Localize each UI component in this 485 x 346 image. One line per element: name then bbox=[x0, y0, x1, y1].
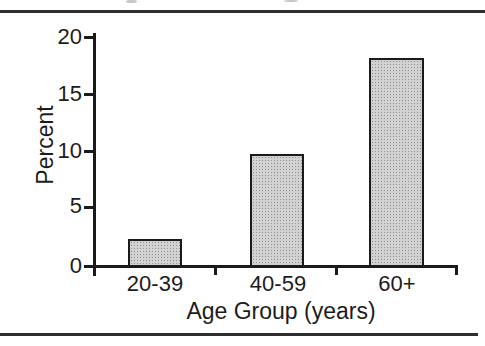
y-tick-label-15: 15 bbox=[32, 83, 82, 105]
scan-artifact-mark bbox=[126, 0, 137, 3]
bottom-horizontal-rule bbox=[0, 333, 478, 336]
y-axis-line bbox=[93, 33, 96, 276]
bar-60-plus bbox=[369, 58, 424, 267]
y-tick-mark-10 bbox=[84, 150, 93, 153]
bar-20-39 bbox=[128, 239, 182, 267]
x-axis-title: Age Group (years) bbox=[131, 299, 431, 323]
category-label-60-plus: 60+ bbox=[337, 273, 457, 295]
category-label-40-59: 40-59 bbox=[218, 273, 338, 295]
top-horizontal-rule bbox=[0, 10, 485, 13]
y-tick-label-0: 0 bbox=[32, 255, 82, 277]
y-tick-mark-15 bbox=[84, 93, 93, 96]
scanned-page: Percent 20 15 10 5 0 20-39 40-59 60+ Age… bbox=[0, 0, 485, 346]
y-tick-label-10: 10 bbox=[32, 140, 82, 162]
y-tick-mark-0 bbox=[84, 265, 93, 268]
category-label-20-39: 20-39 bbox=[95, 273, 215, 295]
y-tick-label-20: 20 bbox=[32, 26, 82, 48]
scan-artifact-mark bbox=[284, 0, 298, 2]
bar-40-59 bbox=[250, 154, 304, 267]
y-tick-mark-20 bbox=[84, 36, 93, 39]
y-tick-label-5: 5 bbox=[32, 195, 82, 217]
y-tick-mark-5 bbox=[84, 206, 93, 209]
